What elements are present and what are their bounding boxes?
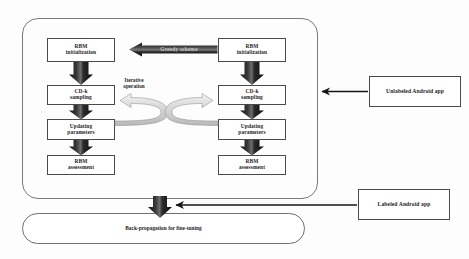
right-rbm-assessment-box[interactable]: RBM assessment: [218, 155, 286, 175]
greedy-scheme-label: Greedy scheme: [142, 47, 216, 53]
right-rbm-assessment-label: RBM assessment: [239, 159, 265, 171]
back-propagation-stage-box[interactable]: Back-propagation for fine-tuning: [22, 213, 305, 244]
labeled-android-app-box[interactable]: Labeled Android app: [358, 189, 450, 220]
left-rbm-initialization-label: RBM initialization: [66, 44, 96, 56]
left-updating-parameters-label: Updating parameters: [67, 124, 94, 136]
left-rbm-initialization-box[interactable]: RBM initialization: [47, 38, 115, 62]
right-rbm-initialization-label: RBM initialization: [237, 44, 267, 56]
left-updating-parameters-box[interactable]: Updating parameters: [47, 119, 115, 140]
right-cdk-sampling-box[interactable]: CD-k sampling: [218, 85, 286, 105]
back-propagation-stage-label: Back-propagation for fine-tuning: [125, 225, 201, 231]
right-rbm-initialization-box[interactable]: RBM initialization: [218, 38, 286, 62]
right-updating-parameters-box[interactable]: Updating parameters: [218, 119, 286, 140]
left-rbm-assessment-label: RBM assessment: [68, 159, 94, 171]
labeled-android-app-label: Labeled Android app: [378, 201, 431, 207]
unlabeled-android-app-label: Unlabeled Android app: [386, 88, 444, 94]
unlabeled-android-app-box[interactable]: Unlabeled Android app: [369, 76, 461, 107]
left-rbm-assessment-box[interactable]: RBM assessment: [47, 155, 115, 175]
iterative-operation-label: Iterative operation: [108, 78, 160, 90]
right-cdk-sampling-label: CD-k sampling: [241, 89, 263, 101]
diagram-canvas: RBM initialization CD-k sampling Updatin…: [0, 0, 469, 259]
right-updating-parameters-label: Updating parameters: [238, 124, 265, 136]
left-cdk-sampling-box[interactable]: CD-k sampling: [47, 85, 115, 105]
left-cdk-sampling-label: CD-k sampling: [70, 89, 92, 101]
